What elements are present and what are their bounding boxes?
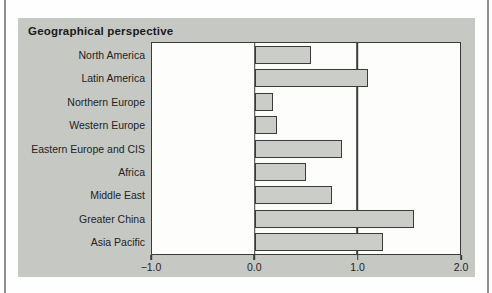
bar — [255, 69, 368, 87]
plot-area — [151, 42, 461, 255]
x-tick-mark — [254, 255, 256, 260]
x-tick-mark — [150, 255, 152, 260]
chart-title: Geographical perspective — [28, 25, 173, 37]
category-label: Eastern Europe and CIS — [18, 143, 145, 155]
page-border-right — [487, 0, 489, 293]
category-label: Northern Europe — [18, 96, 145, 108]
bar — [255, 210, 414, 228]
category-label: Greater China — [18, 213, 145, 225]
x-tick-label: 1.0 — [350, 261, 365, 273]
category-label: Latin America — [18, 72, 145, 84]
x-tick-label: −1.0 — [141, 261, 162, 273]
x-tick-mark — [357, 255, 359, 260]
bar — [255, 46, 311, 64]
category-label: Asia Pacific — [18, 236, 145, 248]
bar — [255, 93, 273, 111]
category-label: North America — [18, 49, 145, 61]
bar — [255, 163, 306, 181]
x-tick-label: 2.0 — [454, 261, 469, 273]
bar — [255, 140, 342, 158]
page-border-left — [4, 0, 6, 293]
category-label: Western Europe — [18, 119, 145, 131]
bar — [255, 186, 332, 204]
x-axis-tick-marks — [151, 255, 461, 260]
bar — [255, 116, 278, 134]
x-tick-mark — [460, 255, 462, 260]
chart-panel: Geographical perspective North AmericaLa… — [18, 18, 475, 277]
category-label: Middle East — [18, 189, 145, 201]
x-tick-label: 0.0 — [247, 261, 262, 273]
bar — [255, 233, 383, 251]
x-axis-tick-labels: −1.00.01.02.0 — [151, 261, 461, 275]
category-label: Africa — [18, 166, 145, 178]
